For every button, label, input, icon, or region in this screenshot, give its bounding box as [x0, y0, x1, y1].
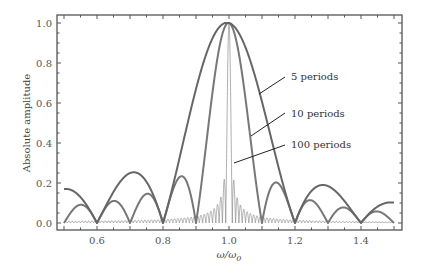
pointer-10-periods: [251, 113, 285, 136]
x-tick-label: 1.4: [353, 235, 369, 246]
x-tick-label: 1.0: [221, 235, 237, 246]
x-axis-label-main: ω/ω: [217, 249, 237, 260]
x-tick-labels: 0.60.81.01.21.4: [89, 235, 369, 246]
y-tick-label: 0.0: [36, 218, 52, 229]
y-tick-label: 1.0: [36, 18, 52, 29]
y-tick-label: 0.4: [36, 138, 52, 149]
label-10-periods: 10 periods: [291, 108, 345, 119]
amplitude-chart: 0.00.20.40.60.81.0 0.60.81.01.21.4 Absol…: [0, 0, 425, 275]
pointer-5-periods: [259, 77, 285, 94]
y-tick-labels: 0.00.20.40.60.81.0: [36, 18, 52, 229]
y-axis-label: Absolute amplitude: [21, 74, 32, 174]
y-tick-label: 0.8: [36, 58, 52, 69]
curves: [64, 23, 394, 223]
x-axis-label: ω/ω0: [217, 249, 242, 263]
label-100-periods: 100 periods: [291, 139, 351, 150]
x-axis-label-sub: 0: [236, 254, 241, 263]
x-tick-label: 0.6: [89, 235, 105, 246]
x-tick-label: 0.8: [155, 235, 171, 246]
x-tick-label: 1.2: [287, 235, 303, 246]
label-5-periods: 5 periods: [291, 71, 338, 82]
curve-5-periods: [64, 23, 394, 223]
y-tick-label: 0.2: [36, 178, 52, 189]
y-tick-label: 0.6: [36, 98, 52, 109]
